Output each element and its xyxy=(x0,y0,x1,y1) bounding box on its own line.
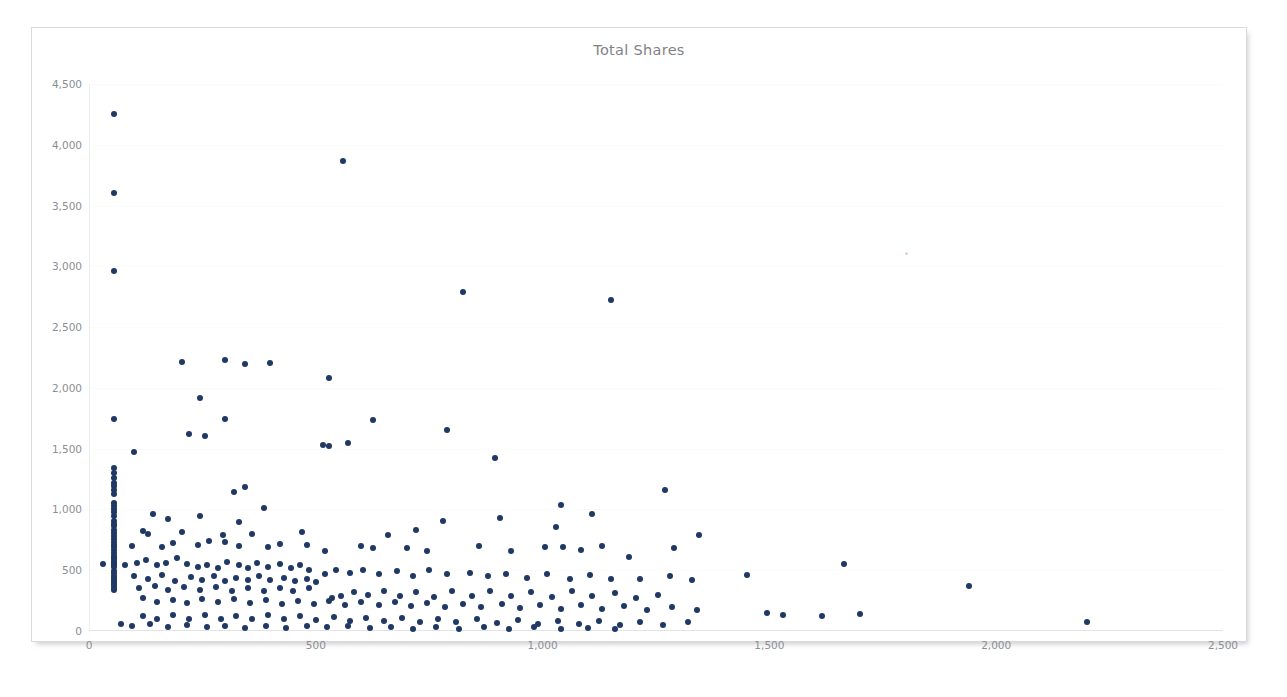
y-axis-line xyxy=(89,84,90,631)
scatter-point xyxy=(179,359,185,365)
scatter-point xyxy=(231,489,237,495)
scatter-point xyxy=(122,562,128,568)
scatter-point xyxy=(685,619,691,625)
scatter-point xyxy=(197,513,203,519)
scatter-point xyxy=(242,484,248,490)
scatter-point xyxy=(360,567,366,573)
scatter-point xyxy=(297,562,303,568)
scatter-point xyxy=(385,532,391,538)
scatter-point xyxy=(163,560,169,566)
scatter-point xyxy=(143,557,149,563)
scatter-point xyxy=(569,588,575,594)
scatter-point xyxy=(100,561,106,567)
scatter-point xyxy=(277,561,283,567)
x-axis-tick-label: 500 xyxy=(306,639,326,651)
scatter-point xyxy=(236,519,242,525)
scatter-point xyxy=(222,578,228,584)
y-axis-tick-label: 1,500 xyxy=(52,443,82,455)
scatter-point xyxy=(669,604,675,610)
scatter-plot-area: 05001,0001,5002,0002,5003,0003,5004,0004… xyxy=(89,84,1223,631)
scatter-point xyxy=(567,576,573,582)
scatter-point xyxy=(322,548,328,554)
scatter-point xyxy=(247,600,253,606)
scatter-point xyxy=(410,626,416,632)
scatter-point xyxy=(365,592,371,598)
scatter-point xyxy=(261,588,267,594)
scatter-point xyxy=(744,572,750,578)
scatter-point xyxy=(424,548,430,554)
scatter-point xyxy=(197,395,203,401)
scatter-point xyxy=(281,575,287,581)
scatter-point xyxy=(233,613,239,619)
scatter-point xyxy=(819,613,825,619)
scatter-point xyxy=(494,620,500,626)
scatter-point xyxy=(558,626,564,632)
scatter-point xyxy=(426,567,432,573)
scatter-point xyxy=(249,531,255,537)
y-axis-tick-label: 2,500 xyxy=(52,321,82,333)
scatter-point xyxy=(621,603,627,609)
scatter-point xyxy=(333,567,339,573)
scatter-point xyxy=(394,568,400,574)
scatter-point xyxy=(633,595,639,601)
x-axis-tick-label: 2,000 xyxy=(981,639,1011,651)
scatter-point xyxy=(444,427,450,433)
gridline-horizontal xyxy=(89,388,1223,389)
scatter-point xyxy=(599,606,605,612)
scatter-point xyxy=(242,361,248,367)
scatter-point xyxy=(508,548,514,554)
scatter-point xyxy=(560,544,566,550)
scatter-point xyxy=(599,543,605,549)
scatter-point xyxy=(145,576,151,582)
scatter-point xyxy=(279,601,285,607)
scatter-point xyxy=(195,564,201,570)
scatter-point xyxy=(587,572,593,578)
scatter-point xyxy=(370,545,376,551)
scatter-point xyxy=(267,360,273,366)
scatter-point xyxy=(326,598,332,604)
scatter-point xyxy=(297,613,303,619)
scatter-point xyxy=(229,588,235,594)
scatter-point xyxy=(165,624,171,630)
scatter-point xyxy=(256,573,262,579)
scatter-point xyxy=(281,616,287,622)
chart-card: Total Shares 05001,0001,5002,0002,5003,0… xyxy=(31,27,1247,642)
y-axis-tick-label: 0 xyxy=(75,625,82,637)
scatter-point xyxy=(469,593,475,599)
scatter-point xyxy=(358,543,364,549)
scatter-point xyxy=(331,614,337,620)
scatter-point xyxy=(764,610,770,616)
scatter-point xyxy=(202,612,208,618)
scatter-point xyxy=(485,573,491,579)
scatter-point xyxy=(231,596,237,602)
scatter-point xyxy=(544,571,550,577)
x-axis-tick-label: 0 xyxy=(86,639,93,651)
scatter-point xyxy=(413,589,419,595)
scatter-point xyxy=(254,560,260,566)
scatter-point xyxy=(404,545,410,551)
scatter-point xyxy=(497,515,503,521)
scatter-point xyxy=(549,594,555,600)
scatter-point xyxy=(558,606,564,612)
chart-title: Total Shares xyxy=(32,42,1246,58)
scatter-point xyxy=(277,585,283,591)
scatter-point xyxy=(111,111,117,117)
scatter-point xyxy=(313,579,319,585)
scatter-point xyxy=(503,571,509,577)
scatter-point xyxy=(578,602,584,608)
scatter-point xyxy=(304,542,310,548)
scatter-point xyxy=(154,562,160,568)
scatter-point xyxy=(499,601,505,607)
scatter-point xyxy=(222,539,228,545)
x-axis-tick-label: 2,500 xyxy=(1208,639,1238,651)
scatter-point xyxy=(506,626,512,632)
scatter-point xyxy=(626,554,632,560)
scatter-point xyxy=(224,559,230,565)
y-axis-tick-label: 3,500 xyxy=(52,200,82,212)
scatter-point xyxy=(476,543,482,549)
scatter-point xyxy=(222,416,228,422)
scatter-point xyxy=(644,607,650,613)
scatter-point xyxy=(397,593,403,599)
x-axis-tick-label: 1,500 xyxy=(754,639,784,651)
scatter-point xyxy=(179,529,185,535)
